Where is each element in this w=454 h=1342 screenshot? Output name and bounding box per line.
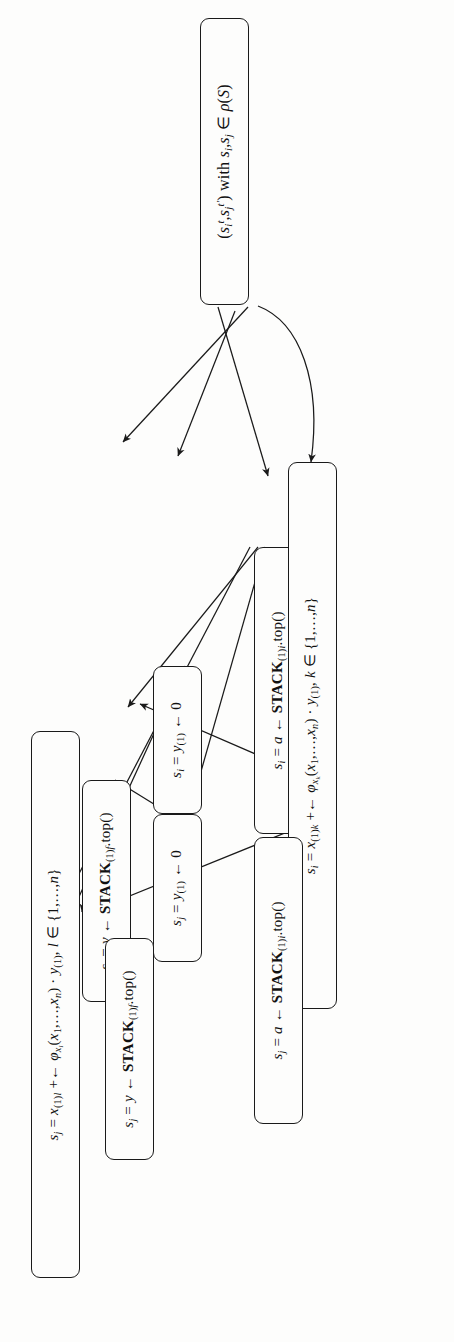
node-sj-phi-l-label: sj = x(1)l +← φxl(x1,…,xn) · y(1), l ∈ {… (46, 868, 65, 1140)
node-start-label: (sit,sjt′) with si,sj ∈ ρ(S) (215, 84, 234, 239)
figure-canvas: (sit,sjt′) with si,sj ∈ ρ(S) si = a ← ST… (0, 0, 454, 1342)
node-sj-phi-l[interactable]: sj = x(1)l +← φxl(x1,…,xn) · y(1), l ∈ {… (31, 731, 80, 1278)
rotated-diagram: (sit,sjt′) with si,sj ∈ ρ(S) si = a ← ST… (0, 0, 454, 1342)
node-si-a-stack-label: si = a ← STACK(1)i.top() (270, 611, 287, 769)
node-si-y-zero[interactable]: si = y(1) ← 0 (153, 666, 202, 814)
node-si-phi-k-label: si = x(1)k +← φxk(x1,…,xn) · y(1), k ∈ {… (303, 597, 322, 874)
edge-start-to-si-y-zero (178, 311, 235, 456)
edge-start-to-si-y-stackf (123, 307, 248, 442)
node-sj-y-stackf-label: sj = y ← STACK(1)f.top() (121, 970, 138, 1127)
node-sj-a-stack-label: sj = a ← STACK(1)i.top() (270, 901, 287, 1059)
node-sj-y-zero[interactable]: sj = y(1) ← 0 (153, 814, 202, 962)
node-sj-y-zero-label: sj = y(1) ← 0 (169, 850, 186, 926)
node-si-y-zero-label: si = y(1) ← 0 (169, 702, 186, 778)
node-start[interactable]: (sit,sjt′) with si,sj ∈ ρ(S) (200, 18, 249, 305)
edge-start-to-si-a-stack (218, 307, 268, 476)
node-sj-y-stackf[interactable]: sj = y ← STACK(1)f.top() (105, 938, 154, 1160)
node-sj-a-stack[interactable]: sj = a ← STACK(1)i.top() (254, 837, 303, 1124)
edge-start-to-si-phi-k (258, 306, 314, 462)
